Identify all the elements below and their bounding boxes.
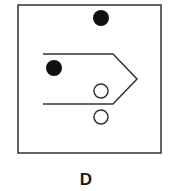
filled-dot-top xyxy=(93,10,109,26)
frame-box xyxy=(18,5,161,153)
figure-canvas xyxy=(0,0,172,191)
filled-dot-left xyxy=(46,60,62,76)
figure-label: D xyxy=(0,170,172,190)
open-circle-lower xyxy=(94,110,108,124)
open-circle-upper xyxy=(94,84,108,98)
